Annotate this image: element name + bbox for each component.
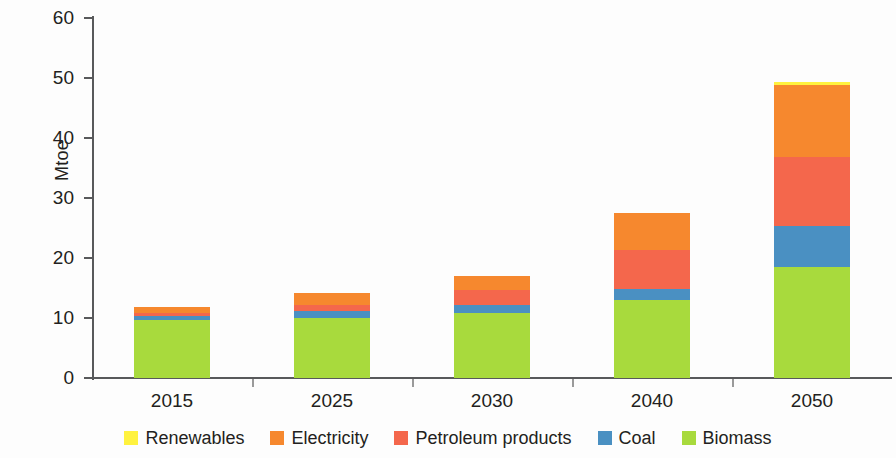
x-axis-tick-label: 2015	[112, 390, 232, 412]
bar-segment	[134, 313, 210, 317]
y-axis-tick-label: 10	[28, 308, 74, 327]
bar-segment	[614, 300, 690, 378]
legend-item-renewables[interactable]: Renewables	[124, 428, 244, 448]
legend-swatch-icon	[270, 431, 284, 445]
bar-segment	[294, 293, 370, 306]
bar-segment	[454, 305, 530, 313]
x-axis-tick-mark	[412, 379, 414, 387]
y-axis-tick-label: 50	[28, 68, 74, 87]
bar-segment	[774, 82, 850, 86]
x-axis-tick-mark	[732, 379, 734, 387]
legend-item-biomass[interactable]: Biomass	[682, 428, 772, 448]
legend-item-electricity[interactable]: Electricity	[270, 428, 368, 448]
bar-segment	[614, 289, 690, 300]
y-axis-tick-label: 20	[28, 248, 74, 267]
x-axis-tick-mark	[252, 379, 254, 387]
bar-stack-2030	[454, 276, 530, 378]
bar-stack-2050	[774, 82, 850, 378]
x-axis-tick-label: 2050	[752, 390, 872, 412]
legend-item-petroleum-products[interactable]: Petroleum products	[394, 428, 571, 448]
legend-item-label: Petroleum products	[415, 428, 571, 448]
y-axis-tick-label: 40	[28, 128, 74, 147]
y-axis-tick-label: 0	[28, 368, 74, 387]
bar-segment	[454, 313, 530, 378]
bar-segment	[454, 276, 530, 290]
x-axis-tick-label: 2025	[272, 390, 392, 412]
legend-swatch-icon	[682, 431, 696, 445]
bar-segment	[134, 316, 210, 320]
bar-segment	[294, 311, 370, 318]
bar-segment	[614, 213, 690, 250]
legend-item-label: Coal	[619, 428, 656, 448]
legend-swatch-icon	[394, 431, 408, 445]
bar-stack-2015	[134, 307, 210, 378]
chart-legend: RenewablesElectricityPetroleum productsC…	[0, 428, 896, 448]
bar-segment	[134, 307, 210, 313]
bars-layer	[92, 18, 892, 378]
stacked-bar-chart: Mtoe 0102030405060 20152025203020402050 …	[0, 0, 896, 458]
bar-segment	[134, 320, 210, 378]
x-axis-tick-label: 2030	[432, 390, 552, 412]
bar-segment	[454, 290, 530, 305]
legend-item-label: Biomass	[703, 428, 772, 448]
y-axis-tick-label: 30	[28, 188, 74, 207]
legend-swatch-icon	[598, 431, 612, 445]
bar-segment	[774, 85, 850, 157]
bar-segment	[774, 157, 850, 226]
legend-swatch-icon	[124, 431, 138, 445]
legend-item-label: Renewables	[145, 428, 244, 448]
x-axis-tick-label: 2040	[592, 390, 712, 412]
bar-segment	[294, 305, 370, 311]
bar-stack-2040	[614, 213, 690, 378]
bar-segment	[774, 226, 850, 267]
legend-item-label: Electricity	[291, 428, 368, 448]
legend-item-coal[interactable]: Coal	[598, 428, 656, 448]
bar-segment	[294, 318, 370, 378]
bar-segment	[614, 250, 690, 289]
y-axis-tick-label: 60	[28, 8, 74, 27]
bar-stack-2025	[294, 293, 370, 378]
x-axis-tick-mark	[572, 379, 574, 387]
bar-segment	[774, 267, 850, 378]
